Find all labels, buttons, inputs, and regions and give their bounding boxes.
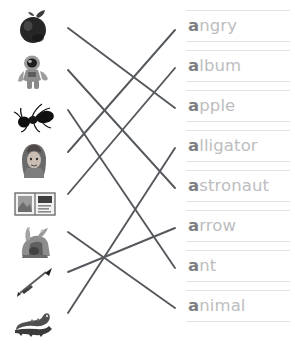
- word-row-animal[interactable]: animal: [186, 290, 290, 332]
- word-alligator: alligator: [188, 134, 258, 158]
- rule-line-bottom: [186, 281, 290, 282]
- word-initial-letter: a: [188, 56, 199, 75]
- line-apple-to-apple[interactable]: [68, 28, 175, 108]
- rule-line-bottom: [186, 241, 290, 242]
- word-angry: angry: [188, 14, 237, 38]
- word-initial-letter: a: [188, 16, 199, 35]
- arrow-photo: [12, 262, 58, 302]
- rule-line-bottom: [186, 81, 290, 82]
- animal-photo: [12, 222, 58, 262]
- word-initial-letter: a: [188, 136, 199, 155]
- line-ant-to-ant[interactable]: [68, 110, 175, 268]
- rule-line-bottom: [186, 201, 290, 202]
- rule-line-top: [186, 90, 290, 91]
- rule-line-bottom: [186, 161, 290, 162]
- word-row-apple[interactable]: apple: [186, 90, 290, 132]
- rule-line-bottom: [186, 41, 290, 42]
- word-row-album[interactable]: album: [186, 50, 290, 92]
- word-arrow: arrow: [188, 214, 236, 238]
- word-album: album: [188, 54, 241, 78]
- word-remainder: nt: [199, 256, 216, 275]
- word-initial-letter: a: [188, 256, 199, 275]
- picture-angry[interactable]: [6, 140, 64, 180]
- line-animal-to-animal[interactable]: [68, 232, 175, 308]
- word-remainder: stronaut: [199, 176, 269, 195]
- word-row-astronaut[interactable]: astronaut: [186, 170, 290, 212]
- word-astronaut: astronaut: [188, 174, 269, 198]
- word-animal: animal: [188, 294, 246, 318]
- picture-arrow[interactable]: [6, 262, 64, 302]
- word-row-angry[interactable]: angry: [186, 10, 290, 52]
- word-row-arrow[interactable]: arrow: [186, 210, 290, 252]
- line-alligator-to-alligator[interactable]: [68, 148, 175, 313]
- word-initial-letter: a: [188, 176, 199, 195]
- rule-line-top: [186, 130, 290, 131]
- rule-line-top: [186, 290, 290, 291]
- word-row-alligator[interactable]: alligator: [186, 130, 290, 172]
- word-row-ant[interactable]: ant: [186, 250, 290, 292]
- astronaut-photo: [12, 52, 58, 92]
- matching-worksheet: angry album apple alligator astronaut ar…: [0, 0, 295, 358]
- alligator-photo: [12, 303, 58, 343]
- word-initial-letter: a: [188, 96, 199, 115]
- line-astronaut-to-astronaut[interactable]: [68, 70, 175, 188]
- rule-line-top: [186, 50, 290, 51]
- word-initial-letter: a: [188, 216, 199, 235]
- rule-line-bottom: [186, 121, 290, 122]
- picture-ant[interactable]: [6, 96, 64, 136]
- word-remainder: lligator: [199, 136, 258, 155]
- picture-apple[interactable]: [6, 8, 64, 48]
- picture-album[interactable]: [6, 184, 64, 224]
- word-remainder: ngry: [199, 16, 237, 35]
- angry-girl-photo: [12, 140, 58, 180]
- picture-animal[interactable]: [6, 222, 64, 262]
- word-column: angry album apple alligator astronaut ar…: [186, 0, 290, 358]
- word-initial-letter: a: [188, 296, 199, 315]
- word-apple: apple: [188, 94, 235, 118]
- rule-line-bottom: [186, 321, 290, 322]
- line-angry-to-angry[interactable]: [68, 30, 175, 152]
- rule-line-top: [186, 10, 290, 11]
- rule-line-top: [186, 250, 290, 251]
- line-album-to-album[interactable]: [68, 68, 175, 194]
- album-photo: [12, 184, 58, 224]
- picture-alligator[interactable]: [6, 303, 64, 343]
- picture-astronaut[interactable]: [6, 52, 64, 92]
- ant-photo: [12, 96, 58, 136]
- rule-line-top: [186, 170, 290, 171]
- word-ant: ant: [188, 254, 216, 278]
- word-remainder: rrow: [199, 216, 236, 235]
- picture-column: [0, 0, 68, 358]
- word-remainder: lbum: [199, 56, 241, 75]
- word-remainder: nimal: [199, 296, 245, 315]
- rule-line-top: [186, 210, 290, 211]
- word-remainder: pple: [199, 96, 235, 115]
- line-arrow-to-arrow[interactable]: [68, 228, 175, 272]
- apple-photo: [12, 8, 58, 48]
